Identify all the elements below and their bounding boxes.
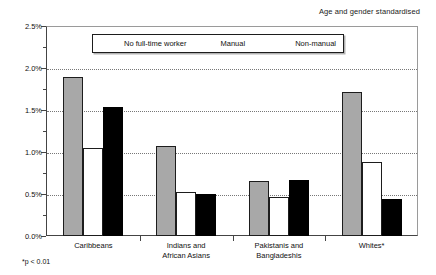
bar: [63, 77, 83, 236]
bar: [342, 92, 362, 236]
white-swatch-icon: [197, 38, 216, 49]
bar: [103, 107, 123, 236]
bar: [269, 197, 289, 236]
bar: [249, 181, 269, 236]
x-axis-category-label: Caribbeans: [74, 241, 112, 251]
black-swatch-icon: [271, 38, 290, 49]
legend-item-non-manual: Non-manual: [271, 38, 336, 49]
legend-item-no-full-time-worker: No full-time worker: [100, 38, 187, 49]
grey-hatched-swatch-icon: [100, 38, 119, 49]
chart-footnote: *p < 0.01: [22, 258, 50, 265]
chart-page: Age and gender standardised 0.0%0.5%1.0%…: [0, 0, 436, 275]
legend-item-manual: Manual: [197, 38, 246, 49]
y-axis-ticks: [0, 26, 46, 236]
chart-legend: No full-time worker Manual Non-manual: [92, 34, 344, 53]
bar: [289, 180, 309, 236]
bars-layer: [47, 26, 418, 236]
bar: [196, 194, 216, 236]
y-axis-tick: [41, 236, 46, 237]
bar: [176, 192, 196, 236]
chart-subtitle: Age and gender standardised: [319, 7, 420, 16]
x-axis-category-label: Pakistanis andBangladeshis: [254, 241, 303, 260]
bar: [156, 146, 176, 236]
bar: [362, 162, 382, 236]
x-axis-labels: CaribbeansIndians andAfrican AsiansPakis…: [47, 241, 418, 271]
bar: [83, 148, 103, 236]
legend-label: No full-time worker: [124, 39, 187, 48]
legend-label: Non-manual: [295, 39, 336, 48]
x-axis-category-label: Whites*: [359, 241, 385, 251]
bar: [382, 199, 402, 236]
x-axis-category-label: Indians andAfrican Asians: [162, 241, 210, 260]
legend-label: Manual: [221, 39, 246, 48]
